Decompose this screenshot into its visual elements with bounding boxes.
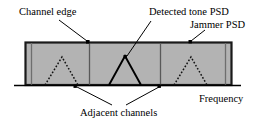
- adjacent-channels-leader-dot-right: [158, 85, 161, 88]
- label-jammer-psd: Jammer PSD: [190, 20, 245, 31]
- adjacent-channels-leader-dot-left: [74, 85, 77, 88]
- figure-canvas: Channel edge Detected tone PSD Jammer PS…: [0, 0, 277, 124]
- jammer-psd-leader-dot: [189, 40, 192, 43]
- label-channel-edge: Channel edge: [19, 7, 76, 18]
- detected-tone-leader-dot: [124, 55, 127, 58]
- channel-edge-leader-line: [59, 20, 87, 41]
- label-frequency-axis: Frequency: [199, 94, 243, 105]
- label-detected-tone-psd: Detected tone PSD: [149, 7, 229, 18]
- channel-edge-leader-dot: [86, 40, 90, 44]
- adjacent-channels-leader-line-left: [77, 87, 112, 105]
- label-adjacent-channels: Adjacent channels: [80, 108, 157, 119]
- jammer-psd-leader-line: [191, 30, 205, 41]
- adjacent-channels-leader-line-right: [126, 87, 159, 105]
